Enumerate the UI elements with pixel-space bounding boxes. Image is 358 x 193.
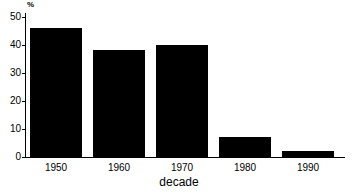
- y-axis-tick-label: 50: [0, 12, 21, 22]
- y-axis-tick-label: 0: [0, 152, 21, 162]
- y-axis-tick-label: 40: [0, 40, 21, 50]
- y-axis-tick-mark: [22, 17, 25, 18]
- y-axis-tick-mark: [22, 73, 25, 74]
- y-axis-tick-mark: [22, 101, 25, 102]
- x-axis-tick-label: 1980: [219, 162, 271, 174]
- x-axis-title: decade: [0, 175, 358, 189]
- y-axis-tick-label: 30: [0, 68, 21, 78]
- bar: [219, 137, 271, 157]
- y-axis-tick-label: 10: [0, 124, 21, 134]
- bar: [282, 151, 334, 157]
- x-axis-line: [25, 157, 345, 158]
- bar: [156, 45, 208, 157]
- x-axis-tick-label: 1990: [282, 162, 334, 174]
- y-axis-tick-mark: [22, 157, 25, 158]
- bar: [30, 28, 82, 157]
- x-axis-tick-label: 1970: [156, 162, 208, 174]
- y-axis-tick-mark: [22, 129, 25, 130]
- y-axis-tick-mark: [22, 45, 25, 46]
- x-axis-tick-label: 1960: [93, 162, 145, 174]
- x-axis-tick-label: 1950: [30, 162, 82, 174]
- bar: [93, 50, 145, 157]
- y-axis-line: [25, 13, 26, 158]
- bar-chart: % 01020304050 19501960197019801990 decad…: [0, 0, 358, 193]
- y-axis-unit-label: %: [27, 0, 34, 10]
- y-axis-tick-label: 20: [0, 96, 21, 106]
